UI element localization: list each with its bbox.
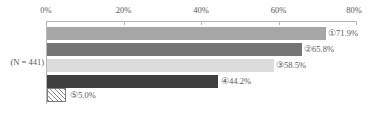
x-axis-tick-3 bbox=[279, 21, 280, 25]
x-axis-tick-label-2: 40% bbox=[193, 5, 209, 15]
bar-4 bbox=[47, 75, 218, 88]
bar-label-2: ②65.8% bbox=[304, 43, 334, 56]
x-axis-tick-label-0: 0% bbox=[40, 5, 51, 15]
bar-label-4: ④44.2% bbox=[221, 75, 251, 88]
x-axis-tick-4 bbox=[356, 21, 357, 25]
x-axis-tick-label-4: 80% bbox=[346, 5, 362, 15]
x-axis-tick-1 bbox=[124, 21, 125, 25]
bar-5 bbox=[47, 88, 66, 102]
bar-label-5: ⑤5.0% bbox=[70, 88, 96, 102]
bar-chart: 0% 20% 40% 60% 80% (N = 441) ①71.9% ②65.… bbox=[0, 0, 369, 119]
x-axis-tick-2 bbox=[201, 21, 202, 25]
x-axis-tick-label-1: 20% bbox=[116, 5, 132, 15]
sample-size-label: (N = 441) bbox=[2, 57, 44, 68]
x-axis-tick-0 bbox=[46, 21, 47, 25]
bar-label-1: ①71.9% bbox=[328, 27, 358, 40]
bar-3 bbox=[47, 59, 274, 72]
bar-1 bbox=[47, 27, 326, 40]
x-axis-tick-label-3: 60% bbox=[271, 5, 287, 15]
bar-label-3: ③58.5% bbox=[276, 59, 306, 72]
bar-2 bbox=[47, 43, 302, 56]
